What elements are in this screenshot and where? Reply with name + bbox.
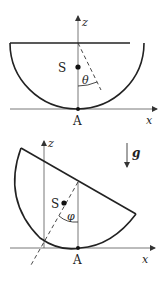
bottom-phi-label: φ	[67, 210, 75, 223]
top-a-label: A	[72, 114, 82, 128]
bottom-z-label: z	[47, 137, 54, 150]
diagram: z x S θ A g z x S φ A	[0, 0, 167, 282]
bottom-figure: g z x S φ A	[10, 137, 155, 267]
bottom-a-label: A	[72, 253, 82, 267]
bottom-x-label: x	[142, 253, 149, 266]
top-z-label: z	[81, 16, 88, 29]
bottom-hemisphere-arc	[15, 148, 136, 249]
top-hemisphere-arc	[10, 43, 144, 109]
top-theta-label: θ	[82, 74, 89, 87]
bottom-contact-point	[76, 246, 80, 250]
top-s-label: S	[58, 61, 66, 75]
bottom-center-point	[61, 200, 66, 205]
top-x-label: x	[146, 114, 153, 127]
top-contact-point	[76, 107, 80, 111]
bottom-dashed-line	[31, 182, 78, 265]
gravity-label: g	[132, 146, 140, 160]
top-figure: z x S θ A	[10, 16, 157, 128]
top-center-point	[75, 64, 80, 69]
bottom-hemisphere-flat-face	[21, 148, 136, 214]
bottom-s-label: S	[51, 197, 59, 211]
